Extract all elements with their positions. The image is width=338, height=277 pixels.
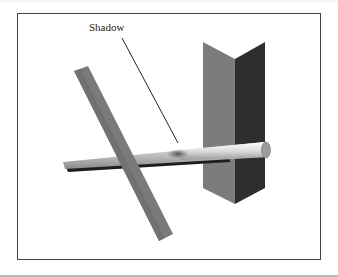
panel-left-face [203, 42, 235, 204]
scene-illustration [0, 0, 338, 277]
rod-end-cap [262, 142, 271, 158]
cast-shadow [167, 149, 189, 159]
annotation-leader-line [122, 38, 178, 143]
panel-right-face [235, 42, 265, 204]
shadow-annotation-label: Shadow [89, 21, 124, 33]
